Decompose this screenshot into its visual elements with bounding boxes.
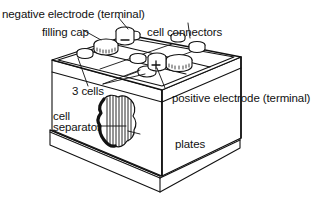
label-negative-electrode: negative electrode (terminal) [2,8,145,20]
label-filling-cap: filling cap [42,26,89,38]
label-cell-connectors: cell connectors [147,26,222,38]
label-plates: plates [175,138,205,150]
battery-diagram: negative electrode (terminal) filling ca… [0,0,326,204]
label-positive-electrode: positive electrode (terminal) [172,92,310,104]
label-separator: separator [53,121,101,133]
negative-terminal [116,27,134,45]
label-3-cells: 3 cells [72,85,104,97]
cutaway-plates [98,95,136,147]
